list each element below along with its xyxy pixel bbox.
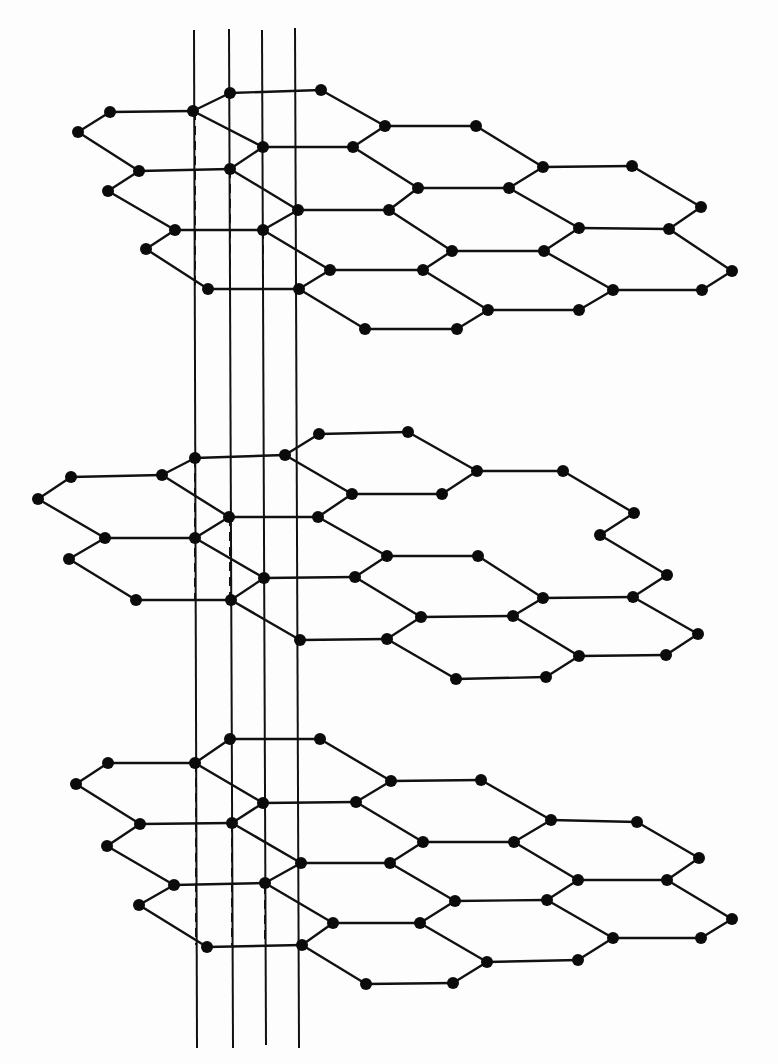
atom-node [347,141,359,153]
bond [71,475,162,477]
bond [632,166,701,207]
bond [543,166,632,167]
atom-node [695,201,707,213]
atom-node [296,939,308,951]
atom-node [573,304,585,316]
bond [321,90,385,126]
bond [563,471,634,513]
atom-node [557,465,569,477]
atom-node [223,511,235,523]
atom-node [130,594,142,606]
atom-node [327,917,339,929]
bond [207,945,302,947]
atom-node [545,814,557,826]
layered-hexagonal-lattice-diagram [0,0,778,1064]
atom-node [101,840,113,852]
atom-node [436,488,448,500]
atom-node [360,978,372,990]
atom-node [133,165,145,177]
atom-node [383,204,395,216]
bond [195,538,264,578]
atom-node [470,120,482,132]
bond [78,132,139,171]
atom-node [508,836,520,848]
atom-node [661,874,673,886]
bond [318,517,387,556]
bond [320,739,391,781]
atom-node [726,265,738,277]
bond [69,538,105,559]
bond [578,938,613,960]
bond [193,111,263,147]
bond [110,111,193,112]
atom-node [350,796,362,808]
atom-node [169,224,181,236]
atom-node [446,245,458,257]
bond [389,210,452,251]
atom-node [314,733,326,745]
atom-node [451,323,463,335]
bond [420,923,487,962]
bond [356,781,391,802]
atom-node [134,818,146,830]
bond [633,575,667,597]
atom-node [324,264,336,276]
atom-node [417,264,429,276]
atom-node [257,224,269,236]
atom-node [507,610,519,622]
atom-node [607,932,619,944]
bond [355,577,421,617]
atom-node [503,182,515,194]
bond [38,499,105,538]
atom-node [189,452,201,464]
atom-node [663,223,675,235]
atom-node [449,895,461,907]
atom-node [537,592,549,604]
bond [387,617,421,639]
bond [390,863,455,901]
bond [263,210,298,230]
atom-node [381,633,393,645]
bond [76,784,140,824]
bond [108,191,175,230]
atom-node [412,182,424,194]
atom-node [696,284,708,296]
bond [487,960,578,962]
atom-node [72,126,84,138]
bond [667,880,732,919]
atom-node [279,449,291,461]
bond [442,471,477,494]
bond [353,147,418,188]
bond [420,901,455,923]
atom-node [202,283,214,295]
atom-node [385,775,397,787]
bond [356,802,423,842]
atom-node [313,428,325,440]
atom-node [471,465,483,477]
bond [547,900,613,938]
atom-node [70,778,82,790]
bond [509,188,579,228]
atom-node [156,469,168,481]
bond [669,229,732,271]
atom-node [102,757,114,769]
atom-node [63,553,75,565]
atom-node [472,550,484,562]
atom-node [315,84,327,96]
bond [195,739,230,763]
atom-node [381,550,393,562]
bond [633,597,698,634]
atom-node [628,507,640,519]
atom-node [140,243,152,255]
atom-node [168,879,180,891]
atom-node [447,977,459,989]
atom-node [631,816,643,828]
atom-node [415,611,427,623]
atom-node [224,163,236,175]
atom-node [99,532,111,544]
atom-node [573,650,585,662]
bond [285,455,352,494]
atom-node [257,141,269,153]
atom-node [693,852,705,864]
atom-node [384,857,396,869]
